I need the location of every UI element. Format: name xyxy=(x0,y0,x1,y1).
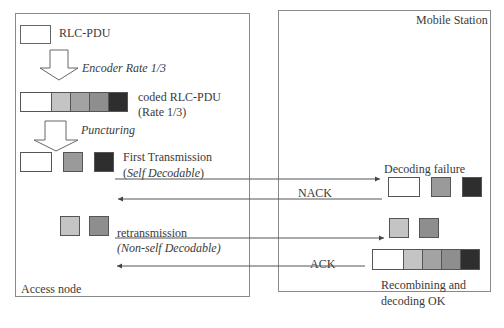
arrows-layer xyxy=(0,0,504,328)
puncturing-down-arrow-icon xyxy=(34,121,78,151)
encoder-down-arrow-icon xyxy=(40,50,78,80)
